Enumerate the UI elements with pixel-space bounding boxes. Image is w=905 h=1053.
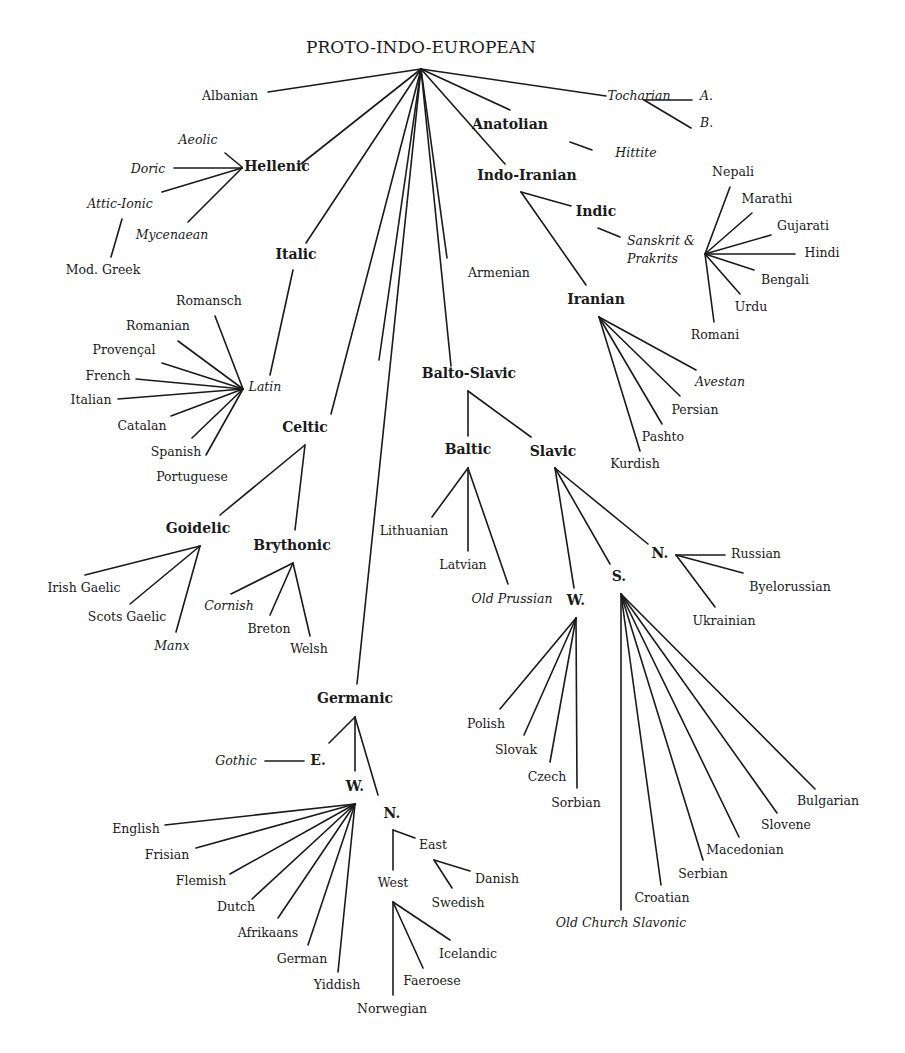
tree-edge [331, 69, 421, 414]
language-label-sorbian: Sorbian [551, 795, 601, 810]
tree-edge [570, 142, 592, 150]
tree-edge [599, 317, 662, 424]
tree-edge [220, 445, 305, 515]
tree-edge [293, 563, 310, 636]
tree-edge [165, 804, 355, 825]
language-label-slovene: Slovene [761, 817, 811, 832]
tree-edge [598, 228, 620, 237]
language-label-welsh: Welsh [290, 641, 328, 656]
language-label-hittite: Hittite [614, 145, 656, 160]
tree-edge [676, 555, 715, 607]
tree-edge [231, 563, 293, 594]
tree-edge [230, 804, 355, 874]
language-label-east: East [419, 837, 447, 852]
tree-edge [432, 468, 468, 517]
language-label-polish: Polish [467, 716, 505, 731]
tree-edge [306, 69, 421, 243]
tree-edge [644, 100, 691, 128]
tree-edge [206, 389, 243, 455]
language-label-latvian: Latvian [439, 557, 486, 572]
language-label-sanskrit-1: Sanskrit & [627, 233, 695, 248]
language-label-latin: Latin [248, 379, 282, 394]
tree-edge [176, 546, 200, 632]
tree-edge [329, 717, 355, 743]
language-label-irish-gaelic: Irish Gaelic [47, 580, 120, 595]
branch-label-slavic-s: S. [612, 568, 627, 584]
tree-edge [421, 69, 447, 258]
root-label: PROTO-INDO-EUROPEAN [306, 37, 536, 57]
tree-edge [555, 468, 648, 544]
tree-edge [357, 69, 421, 684]
branch-label-anatolian: Anatolian [471, 116, 548, 132]
tree-edge [301, 69, 421, 164]
branch-label-celtic: Celtic [282, 419, 328, 435]
tree-edge [295, 445, 305, 530]
branch-label-balto-slavic: Balto-Slavic [422, 365, 516, 381]
branch-label-germanic: Germanic [317, 690, 393, 706]
branch-label-iranian: Iranian [567, 291, 625, 307]
language-label-avestan: Avestan [694, 374, 745, 389]
branch-label-germ-e: E. [310, 752, 326, 768]
language-label-bengali: Bengali [761, 272, 809, 287]
language-label-aeolic: Aeolic [178, 132, 218, 147]
language-label-english: English [112, 821, 160, 836]
language-label-macedonian: Macedonian [706, 842, 784, 857]
language-label-czech: Czech [528, 769, 567, 784]
language-label-cornish: Cornish [204, 598, 254, 613]
language-label-swedish: Swedish [431, 895, 484, 910]
tree-edge [421, 69, 451, 366]
language-label-armenian: Armenian [467, 265, 530, 280]
language-label-flemish: Flemish [176, 873, 226, 888]
tree-edge [111, 219, 122, 257]
language-label-scots-gaelic: Scots Gaelic [88, 609, 166, 624]
language-label-manx: Manx [153, 638, 189, 653]
language-label-italian: Italian [71, 392, 112, 407]
language-label-romansch: Romansch [176, 293, 242, 308]
language-label-urdu: Urdu [735, 299, 768, 314]
language-label-romanian: Romanian [126, 318, 190, 333]
tree-edge [379, 69, 421, 360]
language-label-attic-ionic: Attic-Ionic [86, 196, 153, 211]
language-label-mycenaean: Mycenaean [135, 227, 209, 242]
language-label-byelorussian: Byelorussian [749, 579, 831, 594]
tree-edge [621, 594, 661, 885]
branch-label-germ-n: N. [384, 805, 401, 821]
language-label-doric: Doric [130, 161, 166, 176]
language-label-nepali: Nepali [712, 164, 754, 179]
language-label-breton: Breton [247, 621, 290, 636]
branch-label-baltic: Baltic [445, 441, 492, 457]
branch-label-hellenic: Hellenic [244, 158, 310, 174]
language-label-faeroese: Faeroese [403, 973, 460, 988]
language-label-gujarati: Gujarati [777, 218, 829, 233]
language-label-slovak: Slovak [495, 742, 538, 757]
language-label-portuguese: Portuguese [156, 469, 228, 484]
tree-edge [268, 69, 421, 92]
language-label-toch-a: A. [699, 88, 713, 103]
language-label-old-prussian: Old Prussian [472, 591, 553, 606]
language-label-yiddish: Yiddish [313, 977, 361, 992]
language-label-russian: Russian [731, 546, 781, 561]
language-label-spanish: Spanish [151, 444, 202, 459]
language-label-german: German [277, 951, 328, 966]
branch-label-slavic-w: W. [566, 592, 585, 608]
language-label-serbian: Serbian [678, 866, 727, 881]
language-label-bulgarian: Bulgarian [797, 793, 859, 808]
language-label-danish: Danish [475, 871, 519, 886]
branch-label-indo-iranian: Indo-Iranian [477, 167, 576, 183]
tree-edge [393, 830, 415, 838]
language-label-gothic: Gothic [215, 753, 257, 768]
language-label-tocharian: Tocharian [608, 88, 671, 103]
language-label-french: French [85, 368, 130, 383]
language-label-provencal: Provençal [93, 342, 156, 357]
language-label-norwegian: Norwegian [357, 1001, 427, 1016]
language-label-toch-b: B. [699, 115, 713, 130]
language-label-persian: Persian [671, 402, 718, 417]
tree-edge [705, 254, 714, 322]
branch-label-indic: Indic [576, 203, 616, 219]
tree-labels: PROTO-INDO-EUROPEANAlbanianTocharianA.B.… [47, 37, 859, 1016]
tree-edge [118, 389, 243, 399]
tree-edge [576, 618, 577, 788]
language-label-ukrainian: Ukrainian [692, 613, 755, 628]
language-label-romani: Romani [691, 327, 739, 342]
tree-edge [192, 389, 243, 438]
